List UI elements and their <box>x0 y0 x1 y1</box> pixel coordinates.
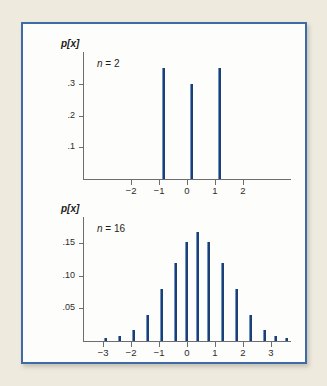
x-tick-label-bottom-2: −2 <box>117 347 145 358</box>
bar-bottom-14 <box>285 338 288 341</box>
bar-top-1 <box>190 84 193 179</box>
bar-bottom-9 <box>221 263 224 341</box>
x-tick-label-top-5: 2 <box>229 185 257 196</box>
x-tick-label-top-4: 1 <box>201 185 229 196</box>
bar-bottom-2 <box>132 330 135 341</box>
bar-bottom-12 <box>263 330 266 341</box>
y-axis-label-bottom: p[x] <box>61 203 79 214</box>
y-tick-top-2 <box>79 116 84 117</box>
annotation-symbol-top: n <box>97 58 103 69</box>
bar-bottom-13 <box>274 336 277 341</box>
x-tick-label-bottom-7: 3 <box>257 347 285 358</box>
y-tick-label-top-1: .1 <box>57 141 75 151</box>
x-tick-label-top-1: −2 <box>117 185 145 196</box>
y-tick-top-3 <box>79 84 84 85</box>
y-tick-label-bottom-3: .15 <box>51 237 75 247</box>
series-annotation-n16: n = 16 <box>97 223 125 234</box>
x-tick-label-top-2: −1 <box>145 185 173 196</box>
bar-bottom-5 <box>174 263 177 341</box>
figure-card: p[x] n = 2 .1 .2 .3 −2 −1 0 1 2 p[x] n =… <box>21 22 307 364</box>
x-tick-label-bottom-4: 0 <box>173 347 201 358</box>
bar-bottom-6 <box>185 242 188 341</box>
bar-top-0 <box>162 68 165 179</box>
y-axis-bottom <box>83 217 84 341</box>
y-tick-bottom-3 <box>79 243 84 244</box>
bar-bottom-0 <box>104 338 107 341</box>
bar-bottom-7 <box>196 232 199 341</box>
y-axis-label-top: p[x] <box>61 38 79 49</box>
chart-panel-n16: p[x] n = 16 .05 .10 .15 −3 −2 −1 0 1 2 3 <box>35 199 297 357</box>
annotation-value-top: 2 <box>114 58 120 69</box>
bar-bottom-4 <box>160 289 163 341</box>
annotation-symbol-bottom: n <box>97 223 103 234</box>
y-tick-label-top-2: .2 <box>57 110 75 120</box>
bar-bottom-8 <box>207 242 210 341</box>
annotation-value-bottom: 16 <box>114 223 125 234</box>
y-tick-bottom-2 <box>79 276 84 277</box>
bar-bottom-3 <box>146 315 149 341</box>
bar-bottom-11 <box>249 315 252 341</box>
y-tick-label-bottom-1: .05 <box>51 302 75 312</box>
x-tick-label-bottom-6: 2 <box>229 347 257 358</box>
x-tick-label-bottom-1: −3 <box>89 347 117 358</box>
x-tick-label-bottom-3: −1 <box>145 347 173 358</box>
chart-panel-n2: p[x] n = 2 .1 .2 .3 −2 −1 0 1 2 <box>35 32 297 192</box>
x-tick-label-top-3: 0 <box>173 185 201 196</box>
y-tick-top-1 <box>79 147 84 148</box>
y-tick-label-top-3: .3 <box>57 78 75 88</box>
bar-bottom-1 <box>118 336 121 341</box>
y-tick-bottom-1 <box>79 308 84 309</box>
series-annotation-n2: n = 2 <box>97 58 120 69</box>
bar-bottom-10 <box>235 289 238 341</box>
x-tick-label-bottom-5: 1 <box>201 347 229 358</box>
bar-top-2 <box>218 68 221 179</box>
y-tick-label-bottom-2: .10 <box>51 270 75 280</box>
